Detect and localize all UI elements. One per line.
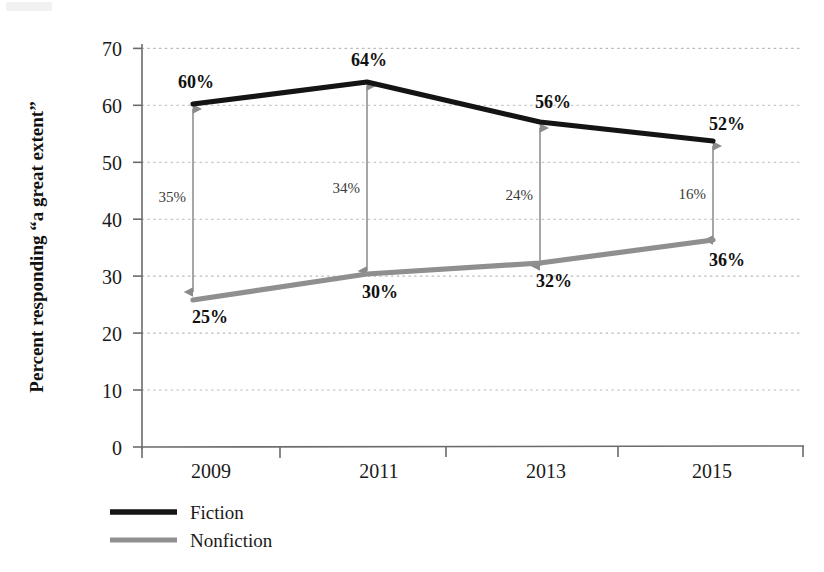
y-tick-label-70: 70 (102, 38, 122, 60)
x-tick-marks (142, 446, 803, 458)
fiction-label-2015: 52% (709, 114, 745, 134)
y-tick-label-60: 60 (102, 95, 122, 117)
x-tick-label-2013: 2013 (526, 460, 566, 482)
x-tick-labels: 2009 2011 2013 2015 (191, 460, 732, 482)
fiction-label-2013: 56% (535, 92, 571, 112)
y-tick-marks (133, 48, 142, 447)
y-axis-title: Percent responding “a great extent” (26, 101, 47, 392)
legend-item-nonfiction[interactable]: Nonfiction (110, 530, 273, 551)
x-axis-line (142, 446, 804, 447)
y-tick-label-10: 10 (102, 380, 122, 402)
gap-labels: 35% 34% 24% 16% (159, 180, 707, 205)
legend-label-fiction: Fiction (190, 502, 244, 523)
x-tick-label-2015: 2015 (692, 460, 732, 482)
x-tick-label-2009: 2009 (191, 460, 231, 482)
gap-label-2009: 35% (159, 189, 187, 205)
fiction-point-labels: 60% 64% 56% 52% (178, 50, 745, 134)
gap-label-2013: 24% (506, 187, 534, 203)
y-tick-label-0: 0 (112, 437, 122, 459)
gap-label-2011: 34% (333, 180, 361, 196)
nonfiction-label-2013: 32% (536, 271, 572, 291)
gap-arrows (193, 86, 713, 292)
series-line-nonfiction (193, 240, 713, 300)
legend-label-nonfiction: Nonfiction (190, 530, 273, 551)
chart-legend: Fiction Nonfiction (110, 502, 273, 551)
y-tick-label-20: 20 (102, 323, 122, 345)
y-tick-label-50: 50 (102, 152, 122, 174)
gap-label-2015: 16% (679, 186, 707, 202)
legend-item-fiction[interactable]: Fiction (110, 502, 244, 523)
series-line-fiction (193, 82, 713, 141)
fiction-label-2011: 64% (351, 50, 387, 70)
y-tick-labels: 70 60 50 40 30 20 10 0 (102, 38, 122, 459)
nonfiction-label-2015: 36% (709, 250, 745, 270)
nonfiction-label-2009: 25% (192, 307, 228, 327)
x-tick-label-2011: 2011 (359, 460, 398, 482)
chart-figure: 70 60 50 40 30 20 10 0 2009 2011 2013 20… (0, 0, 824, 572)
fiction-label-2009: 60% (178, 72, 214, 92)
nonfiction-label-2011: 30% (362, 282, 398, 302)
y-tick-label-30: 30 (102, 266, 122, 288)
y-tick-label-40: 40 (102, 209, 122, 231)
line-chart: 70 60 50 40 30 20 10 0 2009 2011 2013 20… (0, 0, 824, 572)
